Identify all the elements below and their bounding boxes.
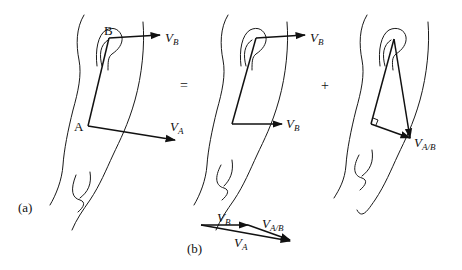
hypotenuse-va [394, 39, 410, 138]
vector-vb-top [256, 35, 305, 38]
plus-sign: + [321, 78, 329, 93]
arm-outline-left [334, 15, 367, 198]
velocity-diagram: B A VB VA = VB VB + VA/B (a) VB VA/B VA … [0, 0, 462, 270]
point-b-label: B [104, 23, 113, 38]
elbow [73, 172, 91, 212]
vab-label: VA/B [414, 135, 436, 152]
arm-outline-left [194, 15, 228, 205]
shoulder-joint-inner [244, 40, 252, 66]
vb-label-top: VB [310, 30, 324, 47]
panel-b-vb-label: VB [217, 210, 231, 227]
vector-vb-left [109, 35, 160, 38]
arm-outline-left [50, 15, 84, 205]
panel-b-vab-label: VA/B [262, 216, 284, 233]
vb-label-bottom: VB [286, 116, 300, 133]
elbow [355, 150, 373, 190]
segment-ab-right [371, 39, 394, 124]
arm-outline-right [357, 22, 429, 214]
panel-b-label: (b) [187, 241, 202, 256]
right-angle-mark [373, 118, 378, 125]
equals-sign: = [180, 78, 188, 93]
elbow [217, 160, 233, 200]
va-label-left: VA [170, 119, 184, 136]
segment-ab-middle [232, 38, 256, 124]
point-a-label: A [74, 119, 84, 134]
left-arm [50, 15, 144, 230]
right-arm [334, 15, 429, 214]
vector-va-left [88, 126, 175, 140]
segment-ab [88, 38, 109, 126]
panel-a-label: (a) [18, 200, 32, 215]
vector-vab [371, 124, 410, 138]
middle-arm [194, 15, 288, 230]
shoulder-joint [379, 28, 406, 70]
vb-label-left: VB [165, 30, 179, 47]
panel-b-va-label: VA [234, 235, 248, 252]
